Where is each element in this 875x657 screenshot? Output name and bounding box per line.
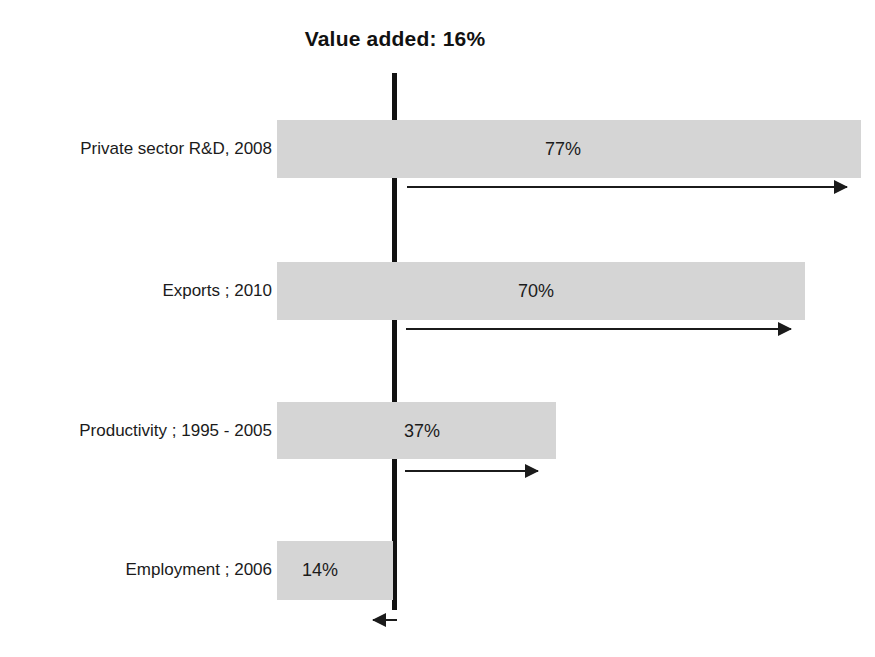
arrow-head <box>778 322 792 336</box>
arrow-head <box>372 613 386 627</box>
arrow-line <box>405 470 538 472</box>
arrow-head <box>525 464 539 478</box>
row-label-productivity: Productivity ; 1995 - 2005 <box>79 421 272 441</box>
bar-value-private-sector-rd: 77% <box>545 139 581 159</box>
trend-arrow-right-icon-exports <box>406 322 791 336</box>
row-label-employment: Employment ; 2006 <box>126 560 272 580</box>
bar-value-employment: 14% <box>302 560 338 580</box>
chart-page: Value added: 16% Private sector R&D, 200… <box>0 0 875 657</box>
arrow-head <box>834 180 848 194</box>
row-label-private-sector-rd: Private sector R&D, 2008 <box>80 139 272 159</box>
bar-value-exports: 70% <box>518 281 554 301</box>
arrow-line <box>407 186 847 188</box>
bar-value-productivity: 37% <box>404 421 440 441</box>
trend-arrow-left-icon-employment <box>373 613 397 627</box>
row-label-exports: Exports ; 2010 <box>162 281 272 301</box>
chart-title: Value added: 16% <box>0 27 790 51</box>
trend-arrow-right-icon-private-sector-rd <box>407 180 847 194</box>
trend-arrow-right-icon-productivity <box>405 464 538 478</box>
arrow-line <box>406 328 791 330</box>
